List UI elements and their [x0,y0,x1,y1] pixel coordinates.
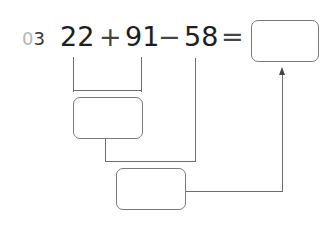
operand-22: 22 [60,22,94,52]
operand-91: 91 [125,22,159,52]
result-connector-horizontal [186,191,283,192]
result-answer-box[interactable] [251,20,319,62]
minus-sign: − [158,22,181,52]
operand-58: 58 [184,22,218,52]
step2-bracket-line [105,161,196,162]
bracket-right-line [141,57,142,92]
plus-sign: + [99,22,122,52]
result-connector-vertical [282,74,283,192]
question-number: 03 [22,28,45,49]
bracket-bottom-line [73,90,142,91]
step1-connector-line [105,139,106,162]
question-number-prefix: 0 [22,28,33,49]
bracket-left-line [73,57,74,92]
step1-answer-box[interactable] [73,97,143,139]
step2-answer-box[interactable] [116,168,186,210]
operand3-connector-line [195,58,196,162]
question-number-suffix: 3 [33,28,44,49]
arrow-up-icon [279,67,285,75]
equals-sign: = [221,22,244,52]
